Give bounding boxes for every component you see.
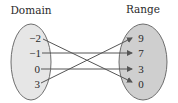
domain-value: −1 [29, 47, 41, 59]
domain-value: 0 [35, 63, 41, 75]
mapping-diagram: Domain Range −2 −1 0 3 9 7 3 0 [0, 0, 178, 103]
range-value: 7 [138, 47, 144, 59]
range-value: 9 [138, 32, 144, 44]
range-value: 0 [138, 78, 144, 90]
domain-label: Domain [10, 4, 51, 16]
range-label: Range [126, 3, 160, 15]
domain-value: 3 [35, 78, 41, 90]
range-value: 3 [138, 63, 144, 75]
domain-value: −2 [29, 32, 41, 44]
